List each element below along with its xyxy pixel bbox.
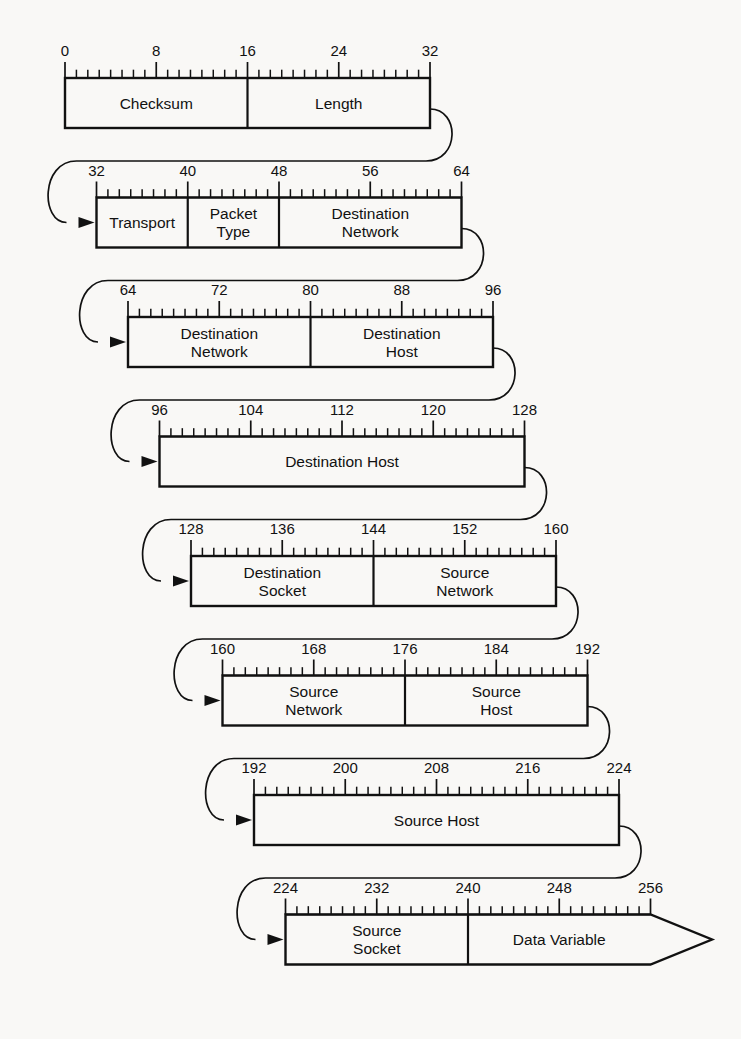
row-7-field-source-host: Source Host: [394, 812, 480, 829]
row-6-connector-arrowhead-icon: [236, 815, 252, 826]
row-3-connector-path: [111, 348, 515, 462]
row-8-field-source-socket-line2: Socket: [353, 940, 401, 957]
row-7-tick-label-200: 200: [333, 759, 358, 776]
row-1-tick-label-16: 16: [239, 42, 256, 59]
row-4-connector-arrowhead-icon: [173, 576, 189, 587]
row-6-field-source-host-line2: Host: [480, 701, 513, 718]
row-3-tick-label-64: 64: [120, 281, 137, 298]
row-2-tick-label-64: 64: [453, 162, 470, 179]
row-5-tick-label-152: 152: [452, 520, 477, 537]
row-5-field-source-network-line2: Network: [436, 582, 493, 599]
row-6: 160168176184192SourceNetworkSourceHost: [206, 640, 610, 826]
row-8-tick-label-224: 224: [273, 879, 298, 896]
row-2: 3240485664TransportPacketTypeDestination…: [80, 162, 484, 348]
row-1-field-length: Length: [315, 95, 362, 112]
row-2-field-destination-network-line2: Network: [342, 223, 399, 240]
row-2-field-packet-type-line1: Packet: [210, 205, 258, 222]
row-6-tick-label-168: 168: [301, 640, 326, 657]
packet-diagram-page: 08162432ChecksumLength3240485664Transpor…: [0, 0, 741, 1039]
row-7-tick-label-208: 208: [424, 759, 449, 776]
row-3-field-destination-host-line2: Host: [386, 343, 419, 360]
row-5-connector-arrowhead-icon: [205, 695, 221, 706]
row-8-field-source-socket-line1: Source: [352, 922, 401, 939]
row-2-tick-label-32: 32: [88, 162, 105, 179]
row-6-tick-label-192: 192: [575, 640, 600, 657]
row-8-tick-label-232: 232: [364, 879, 389, 896]
row-4: 96104112120128Destination Host: [143, 401, 547, 587]
row-8-ruler: 224232240248256: [273, 879, 663, 915]
row-7-tick-label-192: 192: [241, 759, 266, 776]
row-1-tick-label-8: 8: [152, 42, 160, 59]
row-2-tick-label-40: 40: [179, 162, 196, 179]
row-1-field-checksum: Checksum: [120, 95, 193, 112]
row-1-ruler: 08162432: [61, 42, 439, 78]
row-4-fields: Destination Host: [160, 437, 525, 487]
row-6-field-source-network-line2: Network: [285, 701, 342, 718]
row-1-tick-label-0: 0: [61, 42, 69, 59]
row-1-tick-label-24: 24: [330, 42, 347, 59]
row-3-tick-label-72: 72: [211, 281, 228, 298]
row-7-tick-label-224: 224: [606, 759, 631, 776]
row-2-connector-arrowhead-icon: [110, 337, 126, 348]
row-2-field-transport: Transport: [109, 214, 175, 231]
row-6-tick-label-176: 176: [392, 640, 417, 657]
row-2-field-destination-network-line1: Destination: [331, 205, 409, 222]
row-4-tick-label-104: 104: [238, 401, 263, 418]
packet-format-diagram: 08162432ChecksumLength3240485664Transpor…: [0, 0, 741, 1039]
row-3: 6472808896DestinationNetworkDestinationH…: [111, 281, 515, 467]
row-1-fields: ChecksumLength: [65, 78, 430, 128]
row-4-tick-label-96: 96: [151, 401, 168, 418]
row-8-terminal-arrow-outline: [286, 915, 713, 965]
row-8-fields: SourceSocketData Variable: [286, 915, 713, 965]
row-8-tick-label-240: 240: [455, 879, 480, 896]
row-4-ruler: 96104112120128: [151, 401, 537, 437]
row-2-ruler: 3240485664: [88, 162, 470, 198]
row-3-field-destination-network-line2: Network: [191, 343, 248, 360]
row-6-tick-label-160: 160: [210, 640, 235, 657]
row-2-fields: TransportPacketTypeDestinationNetwork: [97, 198, 462, 248]
row-7-ruler: 192200208216224: [241, 759, 631, 795]
row-8-field-data-variable: Data Variable: [513, 931, 606, 948]
row-5-field-source-network-line1: Source: [440, 564, 489, 581]
row-5-tick-label-144: 144: [361, 520, 386, 537]
row-4-tick-label-112: 112: [330, 401, 354, 418]
row-6-tick-label-184: 184: [484, 640, 509, 657]
row-6-field-source-host-line1: Source: [472, 683, 521, 700]
row-7: 192200208216224Source Host: [237, 759, 641, 945]
row-3-tick-label-80: 80: [302, 281, 319, 298]
row-4-field-destination-host: Destination Host: [285, 453, 399, 470]
row-3-ruler: 6472808896: [120, 281, 502, 317]
row-3-field-destination-network-line1: Destination: [180, 325, 258, 342]
row-6-fields: SourceNetworkSourceHost: [223, 676, 588, 726]
row-4-tick-label-128: 128: [512, 401, 537, 418]
row-8-tick-label-256: 256: [638, 879, 663, 896]
row-7-connector-arrowhead-icon: [268, 934, 284, 945]
row-3-field-destination-host-line1: Destination: [363, 325, 441, 342]
row-2-tick-label-56: 56: [362, 162, 379, 179]
row-3-connector-arrowhead-icon: [142, 456, 158, 467]
row-7-fields: Source Host: [254, 795, 619, 845]
row-2-field-packet-type-line2: Type: [217, 223, 251, 240]
row-4-tick-label-120: 120: [421, 401, 446, 418]
row-3-tick-label-88: 88: [393, 281, 410, 298]
row-1-connector-arrowhead-icon: [79, 217, 95, 228]
row-5-tick-label-160: 160: [543, 520, 568, 537]
row-8: 224232240248256SourceSocketData Variable: [273, 879, 712, 965]
row-5-fields: DestinationSocketSourceNetwork: [191, 556, 556, 606]
row-2-tick-label-48: 48: [271, 162, 288, 179]
row-1-tick-label-32: 32: [422, 42, 439, 59]
row-8-tick-label-248: 248: [547, 879, 572, 896]
row-1: 08162432ChecksumLength: [48, 42, 452, 228]
row-6-ruler: 160168176184192: [210, 640, 600, 676]
row-5-field-destination-socket-line2: Socket: [259, 582, 307, 599]
row-5-tick-label-136: 136: [270, 520, 295, 537]
row-3-tick-label-96: 96: [485, 281, 502, 298]
row-5: 128136144152160DestinationSocketSourceNe…: [174, 520, 578, 706]
row-5-field-destination-socket-line1: Destination: [243, 564, 321, 581]
row-5-ruler: 128136144152160: [178, 520, 568, 556]
row-7-tick-label-216: 216: [515, 759, 540, 776]
row-5-tick-label-128: 128: [178, 520, 203, 537]
row-6-field-source-network-line1: Source: [289, 683, 338, 700]
row-3-fields: DestinationNetworkDestinationHost: [128, 317, 493, 367]
